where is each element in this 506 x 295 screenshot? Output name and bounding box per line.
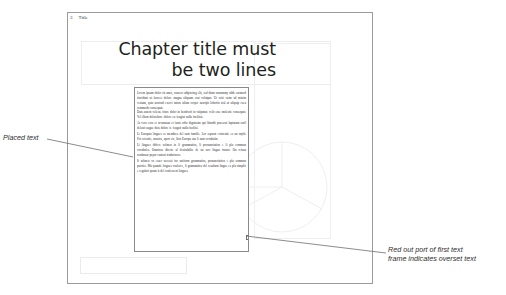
- footer-frame[interactable]: [80, 257, 187, 274]
- chapter-title-text: Chapter title must be two lines: [82, 39, 276, 81]
- chapter-title-frame[interactable]: Chapter title must be two lines: [81, 41, 331, 85]
- body-paragraph: Li lingues differe solmen in li grammati…: [137, 142, 246, 157]
- footer-title-label: Title: [79, 14, 88, 21]
- body-paragraph: At vero eros et accumsan et iusto odio d…: [137, 120, 246, 130]
- body-text-frame[interactable]: Lorem ipsum dolor sit amet, consect adip…: [134, 87, 249, 252]
- document-page-canvas: Chapter title must be two lines Lorem ip…: [67, 12, 373, 284]
- annotation-overset-text: Red out port of first text frame indicat…: [388, 245, 476, 264]
- footer-row: 3 Title: [70, 14, 88, 21]
- body-paragraph: Lorem ipsum dolor sit amet, consect adip…: [137, 90, 246, 110]
- body-paragraph: Li Europan lingues es membres del sam fa…: [137, 131, 246, 141]
- body-paragraph: It solmen va esser necessi far uniform g…: [137, 158, 246, 173]
- body-paragraph: Duis autem velesse iriure dolor in hendr…: [137, 109, 246, 119]
- footer-page-number: 3: [70, 14, 73, 21]
- overset-out-port-icon[interactable]: [246, 235, 250, 240]
- annotation-placed-text: Placed text: [3, 133, 39, 142]
